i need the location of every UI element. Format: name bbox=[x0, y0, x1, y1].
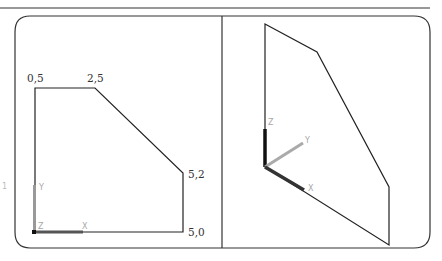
vertex-label-5-0: 5,0 bbox=[188, 226, 205, 238]
vertex-label-0-5: 0,5 bbox=[27, 72, 44, 84]
axis-origin bbox=[32, 230, 36, 234]
vertex-label-5-2: 5,2 bbox=[188, 168, 205, 180]
y-axis-line bbox=[265, 143, 303, 167]
y-axis-label: Y bbox=[38, 183, 44, 192]
x-axis-line bbox=[265, 167, 304, 190]
ucs-axes-icon-iso: Z Y X bbox=[265, 118, 314, 193]
isometric-shape bbox=[265, 24, 389, 245]
ucs-axes-icon: Y Z X bbox=[32, 183, 88, 234]
z-axis-label: Z bbox=[268, 118, 274, 127]
side-mark: 1 bbox=[2, 182, 7, 191]
figure-canvas: 1 0,5 2,5 5,2 5,0 Y Z X Z Y X bbox=[0, 0, 442, 261]
x-axis-label: X bbox=[308, 184, 314, 193]
z-axis-label: Z bbox=[38, 222, 44, 231]
isometric-view-panel: Z Y X bbox=[265, 24, 389, 245]
top-view-panel: 0,5 2,5 5,2 5,0 Y Z X bbox=[27, 72, 205, 238]
x-axis-label: X bbox=[82, 222, 88, 231]
top-view-shape bbox=[35, 88, 183, 232]
y-axis-label: Y bbox=[304, 136, 310, 145]
vertex-label-2-5: 2,5 bbox=[87, 72, 104, 84]
